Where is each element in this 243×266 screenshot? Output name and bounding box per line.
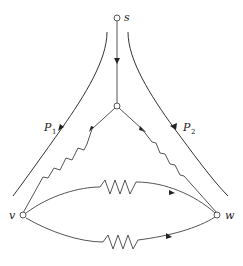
edge-m-to-w-resistor: [119, 108, 217, 213]
flow-network-diagram: P 1 P 2 s: [0, 0, 243, 266]
node-v-label: v: [9, 209, 16, 222]
path-p1-label: P: [43, 121, 52, 134]
path-p1-subscript: 1: [52, 128, 56, 136]
edge-w-v-arrow-icon: [169, 190, 175, 195]
edge-s-m-arrow-icon: [114, 58, 120, 64]
node-s-label: s: [124, 11, 130, 24]
node-w: w: [214, 209, 235, 222]
node-m: [114, 103, 120, 109]
path-p2-subscript: 2: [191, 128, 195, 136]
path-p1: P 1: [13, 32, 107, 196]
edge-m-to-v-resistor: [23, 108, 115, 213]
edge-s-to-m: [114, 21, 120, 103]
node-v: v: [9, 209, 26, 222]
edge-w-to-v-upper-resistor: [26, 180, 215, 213]
path-p2-label: P: [182, 121, 191, 134]
edge-v-to-w-lower-resistor: [26, 217, 215, 249]
node-w-label: w: [225, 209, 235, 222]
node-s: s: [114, 11, 130, 24]
